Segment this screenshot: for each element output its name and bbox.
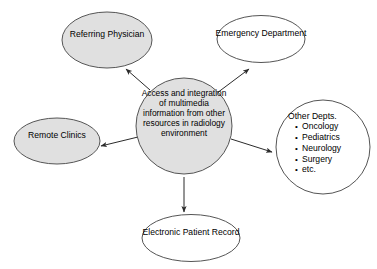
list-item: Oncology	[295, 121, 341, 132]
other-depts-title: Other Depts.	[288, 111, 341, 121]
arrow-to-other-depts	[231, 139, 272, 152]
other-depts-list: Oncology Pediatrics Neurology Surgery et…	[288, 121, 341, 175]
node-center-hub[interactable]	[136, 78, 232, 174]
arrow-to-referring-physician	[126, 69, 150, 90]
node-remote-clinics[interactable]	[14, 118, 100, 164]
list-item: Pediatrics	[295, 132, 341, 143]
list-item: Surgery	[295, 154, 341, 165]
node-electronic-patient-record[interactable]	[142, 215, 240, 262]
node-referring-physician[interactable]	[62, 12, 152, 68]
other-depts-label: Other Depts. Oncology Pediatrics Neurolo…	[288, 111, 341, 175]
list-item: Neurology	[295, 143, 341, 154]
arrow-to-emergency-department	[217, 69, 249, 93]
node-emergency-department[interactable]	[217, 16, 305, 63]
list-item: etc.	[295, 164, 341, 175]
diagram-canvas: Referring Physician Emergency Department…	[0, 0, 377, 269]
arrow-to-remote-clinics	[101, 137, 138, 146]
